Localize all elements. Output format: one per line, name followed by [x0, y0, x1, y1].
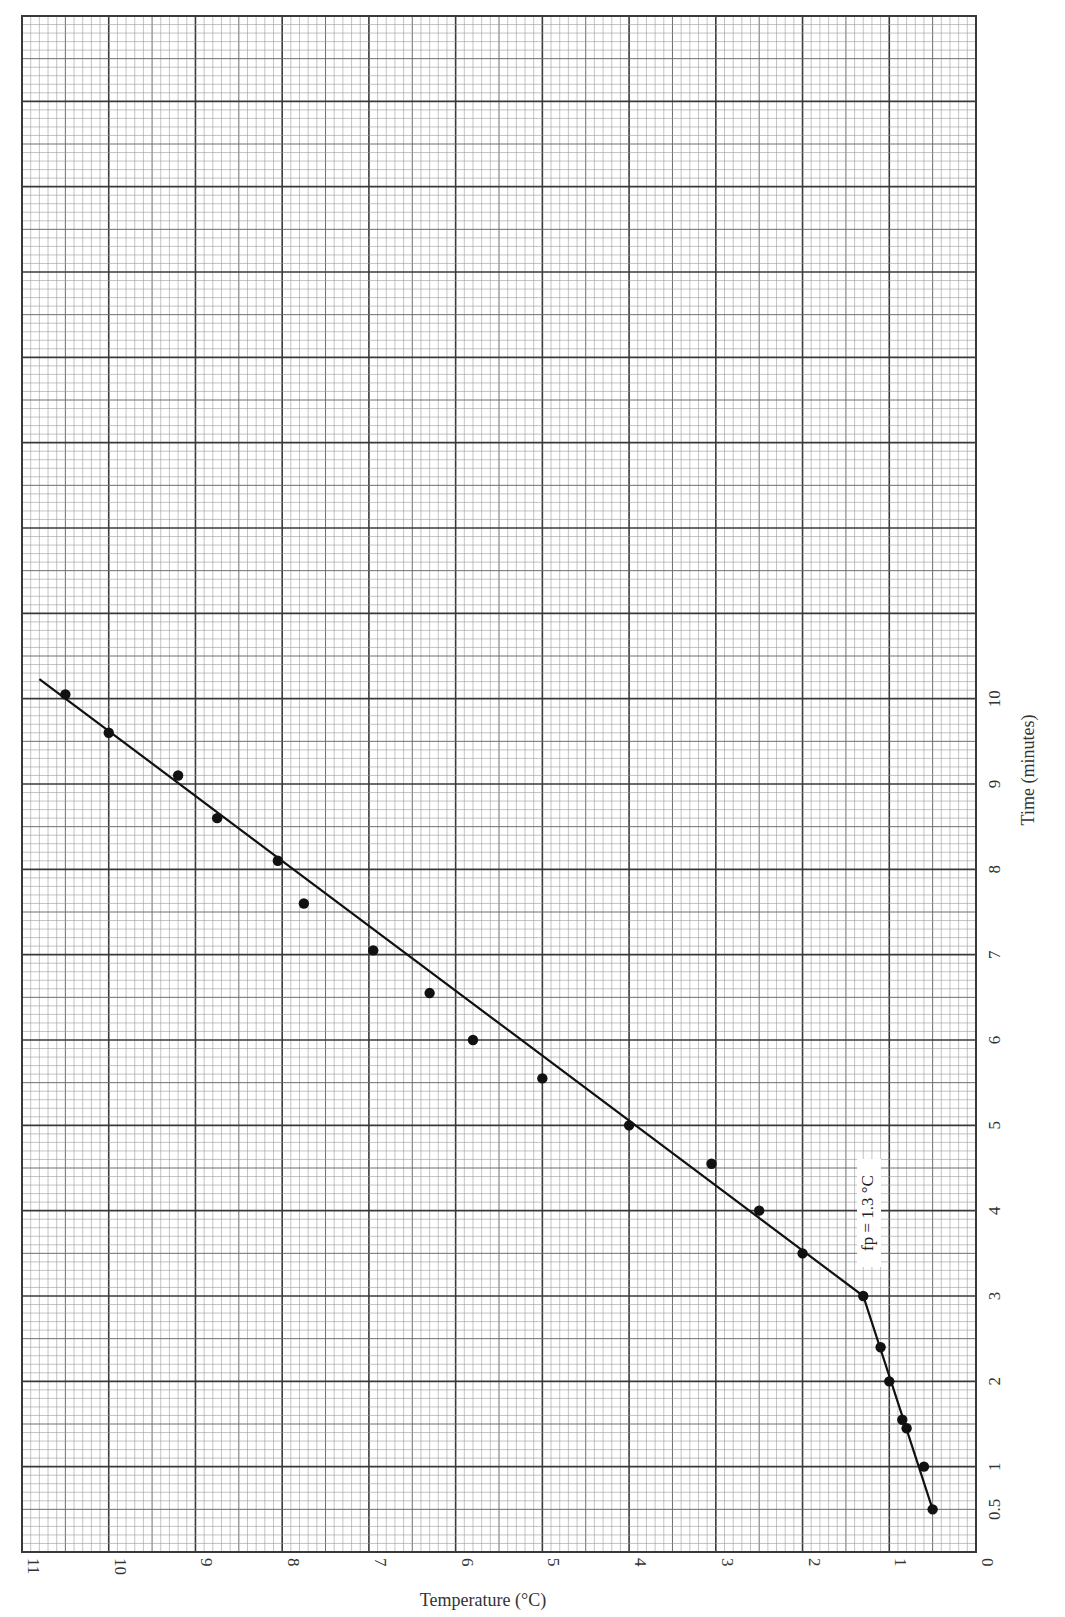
temperature-tick: 5 [544, 1558, 563, 1567]
fit-lines [39, 679, 932, 1509]
temperature-tick: 1 [891, 1558, 910, 1567]
data-point [927, 1504, 937, 1514]
time-tick-labels: 0.512345678910 [985, 690, 1004, 1520]
temperature-tick: 6 [458, 1558, 477, 1567]
time-tick: 4 [985, 1206, 1004, 1215]
time-tick: 6 [985, 1036, 1004, 1045]
temperature-tick: 2 [805, 1558, 824, 1567]
time-tick: 2 [985, 1377, 1004, 1386]
data-point [60, 689, 70, 699]
temperature-tick: 8 [284, 1558, 303, 1567]
time-tick: 9 [985, 780, 1004, 789]
time-tick: 7 [985, 950, 1004, 959]
data-point [884, 1376, 894, 1386]
temperature-tick: 4 [631, 1558, 650, 1567]
temperature-tick-labels: 11109876543210 [24, 1558, 997, 1575]
data-point [104, 728, 114, 738]
time-tick: 3 [985, 1292, 1004, 1301]
data-point [875, 1342, 885, 1352]
data-point [173, 770, 183, 780]
data-point [797, 1248, 807, 1258]
grid [22, 16, 976, 1552]
data-point [897, 1415, 907, 1425]
data-point [468, 1035, 478, 1045]
y-axis-title: Time (minutes) [1018, 715, 1039, 826]
data-point [537, 1073, 547, 1083]
time-tick: 1 [985, 1462, 1004, 1471]
data-point [624, 1120, 634, 1130]
temperature-tick: 11 [24, 1558, 43, 1574]
data-point [212, 813, 222, 823]
annotation-text: fp = 1.3 °C [858, 1175, 877, 1251]
data-point [424, 988, 434, 998]
time-tick: 10 [985, 690, 1004, 707]
data-point [858, 1291, 868, 1301]
time-tick: 8 [985, 865, 1004, 874]
x-axis-title: Temperature (°C) [420, 1590, 546, 1611]
data-point [754, 1205, 764, 1215]
graph-paper-chart: 11109876543210 0.512345678910 fp = 1.3 °… [0, 0, 1065, 1617]
time-tick: 5 [985, 1121, 1004, 1130]
temperature-tick: 3 [718, 1558, 737, 1567]
data-point [919, 1461, 929, 1471]
fp-annotation: fp = 1.3 °C [857, 1159, 881, 1267]
data-point [368, 945, 378, 955]
data-point [706, 1159, 716, 1169]
data-point [273, 856, 283, 866]
temperature-tick: 0 [978, 1558, 997, 1567]
fit-line [39, 679, 932, 1509]
temperature-tick: 9 [197, 1558, 216, 1567]
time-tick: 0.5 [985, 1499, 1004, 1520]
temperature-tick: 7 [371, 1558, 390, 1567]
temperature-tick: 10 [111, 1558, 130, 1575]
data-point [299, 898, 309, 908]
